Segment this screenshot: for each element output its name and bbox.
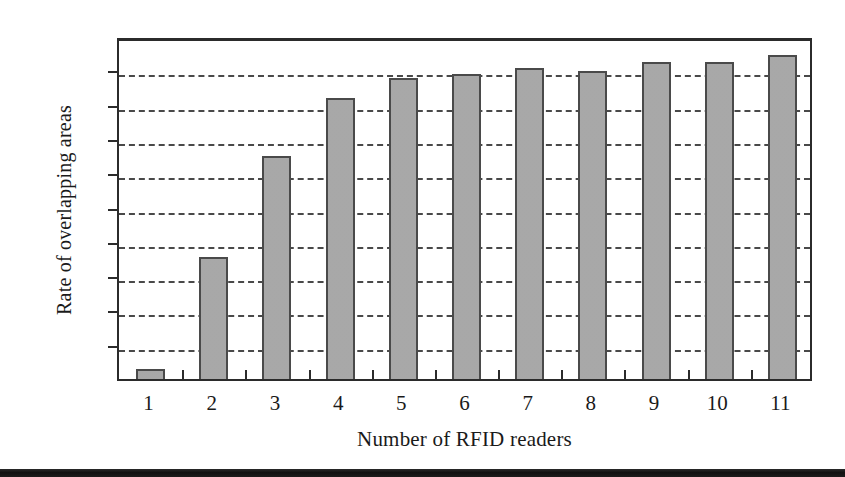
y-tick-mark [108, 174, 117, 176]
bar [642, 62, 671, 379]
bar [768, 55, 797, 379]
bar [199, 257, 228, 379]
x-tick-mark [751, 370, 753, 380]
x-tick-label: 7 [522, 391, 533, 416]
x-tick-label: 5 [396, 391, 407, 416]
x-tick-mark [688, 370, 690, 380]
y-tick-mark [108, 106, 117, 108]
x-tick-label: 3 [270, 391, 281, 416]
y-tick-mark [108, 209, 117, 211]
x-tick-label: 11 [770, 391, 790, 416]
bar [705, 62, 734, 379]
chart-figure: Rate of overlapping areas 00.010.020.030… [0, 0, 845, 477]
x-tick-label: 6 [459, 391, 470, 416]
plot-area [117, 38, 812, 381]
bar [515, 68, 544, 379]
x-tick-label: 8 [586, 391, 597, 416]
x-tick-mark [624, 370, 626, 380]
x-tick-mark [498, 370, 500, 380]
x-tick-label: 4 [333, 391, 344, 416]
bar [136, 369, 165, 379]
bar [326, 98, 355, 379]
x-tick-mark [561, 370, 563, 380]
bar [452, 74, 481, 379]
bar [389, 78, 418, 379]
y-tick-mark [108, 277, 117, 279]
page-edge-band [0, 469, 845, 477]
x-axis-title: Number of RFID readers [117, 427, 812, 452]
x-tick-label: 1 [143, 391, 154, 416]
x-tick-mark [245, 370, 247, 380]
x-tick-label: 10 [707, 391, 728, 416]
y-tick-mark [108, 140, 117, 142]
y-tick-mark [108, 243, 117, 245]
y-axis: 00.010.020.030.040.050.060.070.080.090.1 [0, 0, 117, 477]
y-tick-mark [108, 71, 117, 73]
bar [262, 156, 291, 379]
y-tick-mark [108, 311, 117, 313]
x-tick-mark [372, 370, 374, 380]
y-tick-mark [108, 346, 117, 348]
x-tick-mark [435, 370, 437, 380]
x-tick-mark [309, 370, 311, 380]
x-tick-label: 9 [649, 391, 660, 416]
x-tick-mark [182, 370, 184, 380]
x-tick-label: 2 [207, 391, 218, 416]
bar [578, 71, 607, 379]
